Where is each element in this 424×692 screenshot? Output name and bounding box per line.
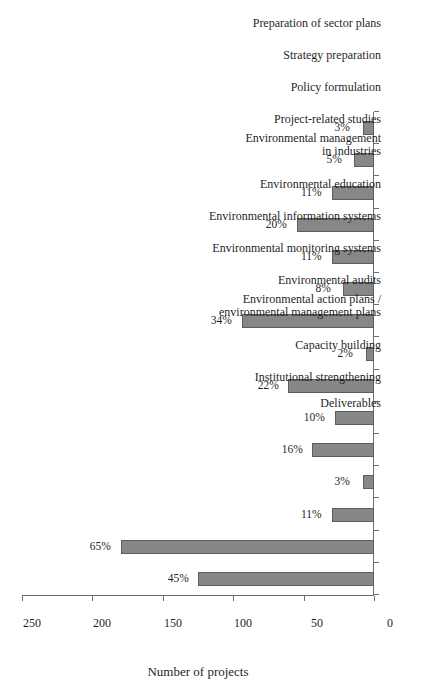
plot-area: 050100150200250 Number of projects 45%65… <box>22 112 374 596</box>
bar[interactable] <box>198 572 374 586</box>
bar-group[interactable]: 45% <box>22 563 374 595</box>
category-label: Environmental audits <box>191 274 381 287</box>
bar-group[interactable]: 3% <box>22 466 374 498</box>
category-label: Capacity building <box>191 338 381 351</box>
category-label: Institutional strengthening <box>191 370 381 383</box>
bar-value-label: 3% <box>335 477 350 489</box>
value-axis-tick <box>92 596 93 601</box>
bar[interactable] <box>121 540 374 554</box>
chart-root: 050100150200250 Number of projects 45%65… <box>0 0 424 692</box>
category-label: Environmental information systems <box>191 209 381 222</box>
value-axis-tick <box>22 596 23 601</box>
rotated-figure-stage: 050100150200250 Number of projects 45%65… <box>0 0 424 692</box>
category-label: Policy formulation <box>191 81 381 94</box>
value-axis-tick <box>374 596 375 601</box>
category-label: Strategy preparation <box>191 48 381 61</box>
value-axis-tick-label: 100 <box>214 617 252 629</box>
bar-group[interactable]: 16% <box>22 434 374 466</box>
category-label: Environmental monitoring systems <box>191 242 381 255</box>
value-axis-title: Number of projects <box>147 664 248 680</box>
value-axis-tick-label: 150 <box>144 617 182 629</box>
category-label: Project-related studies <box>191 113 381 126</box>
value-axis-tick-label: 200 <box>73 617 111 629</box>
category-label: Environmental management in industries <box>191 133 381 158</box>
bar-value-label: 45% <box>167 573 188 585</box>
value-axis-tick-label: 250 <box>3 617 41 629</box>
bar-value-label: 11% <box>301 509 322 521</box>
bar-value-label: 10% <box>304 412 325 424</box>
category-labels-layer: DeliverablesInstitutional strengtheningC… <box>375 112 376 595</box>
category-label: Environmental action plans / environment… <box>191 294 381 319</box>
value-axis-line <box>22 595 374 596</box>
bar[interactable] <box>335 411 374 425</box>
bar-value-label: 16% <box>281 444 302 456</box>
value-axis-tick <box>233 596 234 601</box>
bar-group[interactable]: 65% <box>22 531 374 563</box>
bar-value-label: 65% <box>90 541 111 553</box>
value-axis-tick <box>304 596 305 601</box>
category-axis-title: Deliverables <box>191 397 381 410</box>
value-axis-tick-label: 0 <box>355 617 393 629</box>
category-label: Preparation of sector plans <box>191 16 381 29</box>
bar[interactable] <box>332 508 374 522</box>
bar[interactable] <box>363 475 374 489</box>
bar[interactable] <box>312 443 374 457</box>
category-label: Environmental education <box>191 177 381 190</box>
value-axis-tick <box>163 596 164 601</box>
bar-group[interactable]: 11% <box>22 498 374 530</box>
value-axis-tick-label: 50 <box>285 617 323 629</box>
